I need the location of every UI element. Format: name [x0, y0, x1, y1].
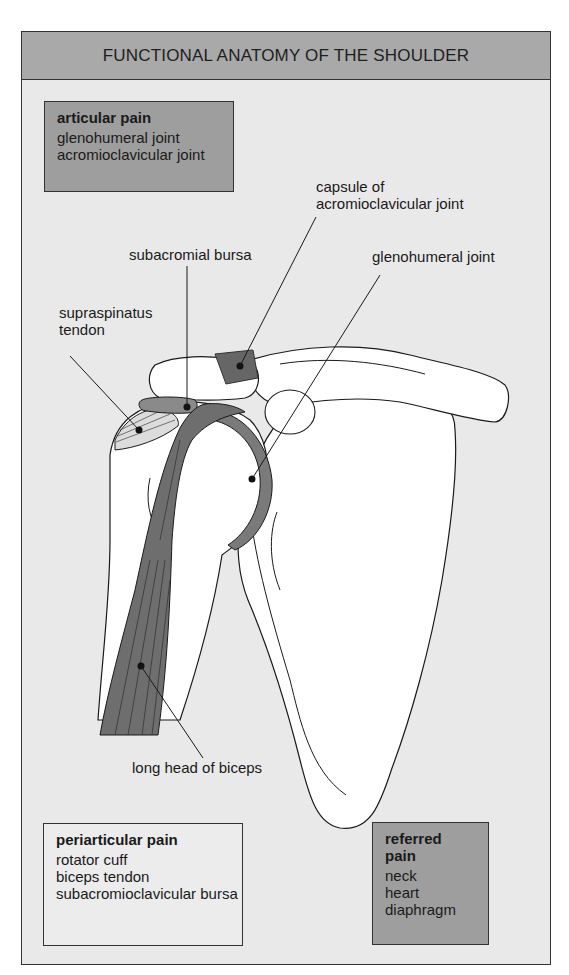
referred-item: neck: [385, 867, 476, 884]
label-long-head-biceps: long head of biceps: [132, 759, 262, 776]
label-supraspinatus-line1: supraspinatus: [59, 304, 152, 321]
label-subacromial-bursa: subacromial bursa: [129, 246, 252, 263]
leader-supraspinatus: [70, 356, 139, 430]
periarticular-item: subacromioclavicular bursa: [56, 885, 230, 902]
articular-pain-box: articular pain glenohumeral joint acromi…: [44, 101, 234, 192]
label-capsule-line1: capsule of: [316, 178, 464, 195]
periarticular-item: rotator cuff: [56, 851, 230, 868]
articular-item: acromioclavicular joint: [57, 146, 221, 163]
articular-pain-title: articular pain: [57, 109, 221, 126]
periarticular-pain-title: periarticular pain: [56, 831, 230, 848]
label-supraspinatus-tendon: supraspinatus tendon: [59, 304, 152, 338]
referred-item: diaphragm: [385, 901, 476, 918]
referred-pain-box: referred pain neck heart diaphragm: [372, 822, 489, 945]
label-capsule-line2: acromioclavicular joint: [316, 195, 464, 212]
label-supraspinatus-line2: tendon: [59, 321, 152, 338]
referred-pain-title: referred pain: [385, 830, 476, 864]
leader-capsule: [240, 217, 316, 366]
articular-item: glenohumeral joint: [57, 129, 221, 146]
periarticular-pain-box: periarticular pain rotator cuff biceps t…: [43, 823, 243, 946]
label-glenohumeral-joint: glenohumeral joint: [372, 248, 495, 265]
periarticular-item: biceps tendon: [56, 868, 230, 885]
referred-item: heart: [385, 884, 476, 901]
label-capsule-ac-joint: capsule of acromioclavicular joint: [316, 178, 464, 212]
coracoid: [265, 390, 315, 434]
scapula: [238, 388, 456, 828]
